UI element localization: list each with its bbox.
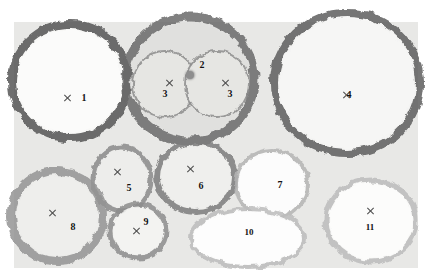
colony-1 (12, 24, 128, 138)
colony-1-body (18, 30, 123, 133)
colony-3b-label: 3 (228, 89, 233, 99)
colony-3b-body (186, 52, 247, 115)
colony-5-body (97, 151, 148, 208)
colony-2-label: 2 (200, 60, 205, 70)
colony-10 (191, 209, 305, 267)
colony-10-body (194, 212, 302, 264)
colony-4-label: 4 (347, 90, 352, 100)
colony-5-label: 5 (127, 183, 132, 193)
colony-7-body (239, 153, 305, 215)
colony-plate-image: 12334567891011 (0, 0, 432, 271)
colony-3a-label: 3 (163, 89, 168, 99)
colony-10-label: 10 (245, 228, 254, 237)
colony-3b (185, 51, 249, 117)
colony-9-label: 9 (144, 217, 149, 227)
colony-11-label: 11 (366, 223, 375, 232)
colony-8-body (17, 177, 98, 256)
colony-8 (11, 171, 103, 261)
colony-9-body (114, 208, 163, 255)
colony-4 (274, 13, 420, 153)
colony-2-center-dot-icon (186, 71, 194, 79)
colony-6-body (161, 146, 231, 208)
colony-6 (157, 142, 235, 212)
colony-1-label: 1 (82, 93, 87, 103)
colony-4-body (280, 19, 415, 148)
colony-8-label: 8 (71, 222, 76, 232)
colony-9 (110, 204, 166, 258)
colony-7-label: 7 (278, 180, 283, 190)
colony-6-label: 6 (199, 181, 204, 191)
